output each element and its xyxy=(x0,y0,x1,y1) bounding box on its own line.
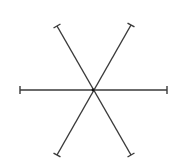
asterisk-diagram xyxy=(0,0,179,164)
center-point xyxy=(92,89,95,92)
